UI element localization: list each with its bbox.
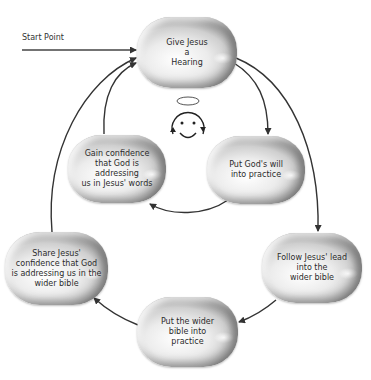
node-share-confidence: Share Jesus' confidence that God is addr…: [5, 232, 108, 305]
start-point-label: Start Point: [22, 33, 64, 42]
node-put-gods-will: Put God's will into practice: [207, 136, 305, 204]
node-label: Share Jesus' confidence that God is addr…: [5, 249, 107, 289]
smiley-with-halo-icon: [170, 97, 206, 146]
arrow-wider-bible-to-share: [94, 298, 138, 325]
node-give-jesus-a-hearing: Give Jesus a Hearing: [137, 17, 237, 88]
node-put-wider-bible: Put the wider bible into practice: [137, 297, 238, 367]
arrow-follow-lead-to-wider-bible: [239, 300, 276, 322]
node-label: Follow Jesus' lead into the wider bible: [271, 253, 353, 283]
node-follow-jesus-lead: Follow Jesus' lead into the wider bible: [262, 233, 362, 303]
node-label: Put God's will into practice: [223, 160, 289, 180]
arrow-gain-confidence-to-hearing: [104, 63, 136, 134]
arrow-gods-will-to-gain-confidence: [150, 200, 228, 213]
node-label: Put the wider bible into practice: [155, 317, 220, 347]
node-label: Gain confidence that God is addressing u…: [68, 149, 166, 189]
node-gain-confidence: Gain confidence that God is addressing u…: [68, 135, 166, 203]
node-label: Give Jesus a Hearing: [160, 38, 213, 68]
